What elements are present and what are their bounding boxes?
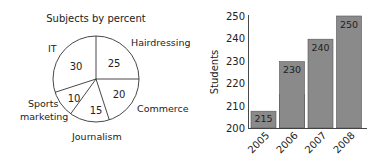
chart-canvas: Subjects by percent 25 20 15 10 30 Haird… — [0, 0, 384, 160]
pie-chart: Subjects by percent 25 20 15 10 30 Haird… — [20, 13, 191, 142]
x-tick-2006: 2006 — [274, 130, 300, 156]
pie-label-it: IT — [48, 43, 57, 54]
y-tick-210: 210 — [226, 101, 245, 112]
x-tick-2008: 2008 — [331, 130, 357, 156]
pie-title: Subjects by percent — [46, 13, 146, 24]
bar-chart: Students 200 210 220 230 240 250 215 230… — [209, 11, 367, 155]
pie-value-journalism: 15 — [90, 105, 103, 116]
bar-2007 — [308, 39, 333, 128]
x-tick-2007: 2007 — [303, 130, 329, 156]
x-tick-2005: 2005 — [246, 130, 272, 156]
y-tick-labels: 200 210 220 230 240 250 — [226, 11, 245, 134]
pie-label-journalism: Journalism — [71, 131, 122, 142]
pie-value-sports-marketing: 10 — [68, 93, 81, 104]
y-tick-230: 230 — [226, 56, 245, 67]
pie-label-sports: Sports — [28, 98, 59, 109]
pie-label-commerce: Commerce — [137, 103, 189, 114]
y-tick-220: 220 — [226, 78, 245, 89]
bar-label-2005: 215 — [254, 113, 272, 124]
y-tick-240: 240 — [226, 33, 245, 44]
y-tick-250: 250 — [226, 11, 245, 22]
bar-label-2007: 240 — [311, 42, 329, 53]
bar-label-2006: 230 — [283, 64, 301, 75]
pie-value-commerce: 20 — [113, 89, 126, 100]
bar-2008 — [337, 16, 362, 128]
pie-label-hairdressing: Hairdressing — [131, 37, 191, 48]
x-tick-labels: 2005 2006 2007 2008 — [246, 130, 357, 156]
pie-value-it: 30 — [70, 61, 83, 72]
pie-value-hairdressing: 25 — [108, 58, 121, 69]
pie-label-marketing: marketing — [20, 111, 68, 122]
y-axis-label: Students — [209, 50, 220, 95]
y-tick-200: 200 — [226, 123, 245, 134]
bar-label-2008: 250 — [340, 19, 358, 30]
